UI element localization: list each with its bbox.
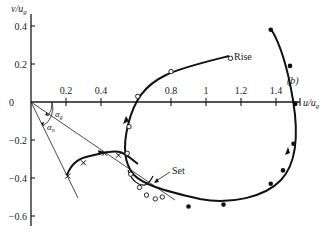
cross-marker	[81, 160, 86, 165]
open-marker	[144, 193, 148, 197]
x-tick-label: 1.2	[235, 85, 248, 96]
y-tick-label: −0.2	[9, 135, 27, 146]
set-pointer-line	[156, 172, 170, 181]
open-marker	[136, 94, 140, 98]
x-axis-ticks: 0.20.40.811.21.4	[60, 85, 283, 106]
set-label: Set	[172, 165, 185, 176]
filled-marker	[281, 168, 286, 173]
x-tick-label: 0.4	[95, 85, 108, 96]
y-axis-label: v/ug	[11, 3, 27, 16]
x-tick-label: 1	[204, 85, 209, 96]
x-axis-label: u/ug	[303, 97, 320, 110]
open-marker	[127, 125, 131, 129]
filled-marker	[268, 28, 273, 33]
filled-marker	[221, 202, 226, 207]
hodograph-curve	[125, 29, 296, 201]
x-tick-label: 0.2	[60, 85, 73, 96]
y-tick-label: −0.4	[9, 173, 27, 184]
filled-marker	[186, 204, 191, 209]
y-tick-label: −0.6	[9, 211, 27, 222]
filled-marker	[293, 102, 298, 107]
filled-marker	[291, 142, 296, 147]
filled-marker	[268, 181, 273, 186]
open-marker	[137, 185, 141, 189]
set-pointer-arrowhead	[154, 178, 159, 183]
direction-arrow-3	[285, 147, 290, 155]
x-tick-label: 0.8	[165, 85, 178, 96]
alpha-g-label: αg	[55, 109, 63, 120]
y-tick-label: 0.2	[15, 59, 28, 70]
open-marker	[153, 197, 157, 201]
filled-marker	[288, 64, 293, 69]
alpha-n-label: αn	[47, 122, 55, 133]
x-tick-label: 1.4	[270, 85, 283, 96]
hodograph-diagram: 0.20.40.811.21.4 0.40.20−0.2−0.4−0.6 v/u…	[0, 0, 335, 234]
cross-marker	[116, 153, 121, 158]
open-marker	[228, 56, 232, 60]
open-marker	[125, 151, 129, 155]
rise-label: Rise	[234, 51, 252, 62]
open-marker	[169, 69, 173, 73]
y-tick-label: 0.4	[15, 21, 28, 32]
y-tick-label: 0	[9, 97, 14, 108]
open-marker	[129, 172, 133, 176]
open-marker	[160, 195, 164, 199]
